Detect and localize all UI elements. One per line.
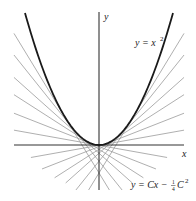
curve-label-text: y = x xyxy=(134,37,156,48)
fraction-denominator: 4 xyxy=(172,186,175,192)
family-label: y = Cx − 1 4 C 2 xyxy=(130,177,189,192)
fraction-numerator: 1 xyxy=(172,179,175,185)
x-axis-label: x xyxy=(181,148,187,159)
plot-area: y x y = x 2 y = Cx − 1 4 C 2 xyxy=(0,0,196,201)
envelope-diagram: y x y = x 2 y = Cx − 1 4 C 2 xyxy=(0,0,196,201)
family-label-text: y = Cx − xyxy=(130,179,168,190)
family-label-var: C xyxy=(177,179,184,190)
curve-label: y = x 2 xyxy=(134,35,164,48)
curve-label-exponent: 2 xyxy=(160,35,164,43)
y-axis-label: y xyxy=(103,11,109,22)
family-label-exponent: 2 xyxy=(185,177,189,185)
